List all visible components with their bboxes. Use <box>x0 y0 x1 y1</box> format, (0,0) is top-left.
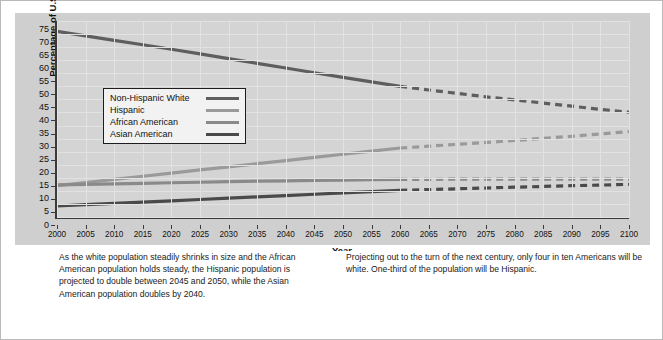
x-tick-mark <box>200 225 201 229</box>
x-tick-mark <box>114 225 115 229</box>
y-tick-label: 65 <box>23 51 49 60</box>
gridline-vertical <box>86 21 87 217</box>
legend-label: Hispanic <box>110 105 145 115</box>
y-tick-mark <box>51 68 55 69</box>
gridline-vertical <box>372 21 373 217</box>
gridline-vertical <box>457 21 458 217</box>
x-tick-mark <box>429 225 430 229</box>
y-tick-label: 20 <box>23 168 49 177</box>
y-tick-mark <box>51 29 55 30</box>
gridline-vertical <box>429 21 430 217</box>
gridline-horizontal <box>57 178 629 179</box>
caption-left: As the white population steadily shrinks… <box>15 251 324 329</box>
gridline-horizontal <box>57 165 629 166</box>
chart-panel: Percentage of U.S. Population 0510152025… <box>15 13 650 245</box>
x-tick-mark <box>400 225 401 229</box>
legend-swatch <box>206 109 239 112</box>
y-tick-label: 5 <box>23 207 49 216</box>
x-tick-mark <box>457 225 458 229</box>
y-tick-mark <box>51 186 55 187</box>
y-tick-label: 10 <box>23 194 49 203</box>
y-tick-mark <box>51 81 55 82</box>
y-tick-mark <box>51 134 55 135</box>
x-tick-mark <box>143 225 144 229</box>
gridline-vertical <box>286 21 287 217</box>
x-tick-mark <box>486 225 487 229</box>
gridline-vertical <box>543 21 544 217</box>
y-tick-label: 35 <box>23 129 49 138</box>
y-tick-mark <box>51 120 55 121</box>
y-tick-label: 45 <box>23 103 49 112</box>
y-tick-label: 50 <box>23 90 49 99</box>
x-tick-label: 2100 <box>612 231 646 239</box>
caption-row: As the white population steadily shrinks… <box>15 251 650 329</box>
x-tick-mark <box>600 225 601 229</box>
gridline-vertical <box>314 21 315 217</box>
gridline-horizontal <box>57 152 629 153</box>
gridline-horizontal <box>57 204 629 205</box>
legend-row: African American <box>110 116 239 128</box>
gridline-vertical <box>572 21 573 217</box>
legend-row: Hispanic <box>110 104 239 116</box>
legend-swatch <box>206 121 239 124</box>
x-tick-mark <box>286 225 287 229</box>
y-tick-mark <box>51 160 55 161</box>
y-tick-mark <box>51 199 55 200</box>
gridline-vertical <box>486 21 487 217</box>
x-tick-mark <box>314 225 315 229</box>
gridline-vertical <box>400 21 401 217</box>
x-tick-mark <box>86 225 87 229</box>
y-tick-label: 15 <box>23 181 49 190</box>
gridline-horizontal <box>57 60 629 61</box>
x-tick-mark <box>343 225 344 229</box>
legend-swatch <box>206 133 239 136</box>
y-tick-mark <box>51 94 55 95</box>
x-tick-mark <box>257 225 258 229</box>
legend-label: African American <box>110 117 178 127</box>
gridline-horizontal <box>57 73 629 74</box>
legend-label: Asian American <box>110 129 173 139</box>
x-tick-mark <box>229 225 230 229</box>
gridline-vertical <box>629 21 630 217</box>
figure-container: Percentage of U.S. Population 0510152025… <box>0 0 663 340</box>
gridline-vertical <box>515 21 516 217</box>
gridline-horizontal <box>57 217 629 218</box>
y-tick-label: 30 <box>23 142 49 151</box>
y-tick-label: 40 <box>23 116 49 125</box>
legend-label: Non-Hispanic White <box>110 93 190 103</box>
y-tick-mark <box>51 55 55 56</box>
x-tick-mark <box>171 225 172 229</box>
gridline-horizontal <box>57 47 629 48</box>
gridline-vertical <box>343 21 344 217</box>
y-tick-label: 25 <box>23 155 49 164</box>
caption-right: Projecting out to the turn of the next c… <box>342 251 650 329</box>
y-tick-mark <box>51 225 55 226</box>
y-tick-label: 60 <box>23 64 49 73</box>
chart-legend: Non-Hispanic WhiteHispanicAfrican Americ… <box>103 88 246 144</box>
x-tick-mark <box>543 225 544 229</box>
gridline-vertical <box>257 21 258 217</box>
y-tick-mark <box>51 107 55 108</box>
gridline-horizontal <box>57 34 629 35</box>
gridline-horizontal <box>57 191 629 192</box>
legend-row: Non-Hispanic White <box>110 92 239 104</box>
x-tick-mark <box>57 225 58 229</box>
gridline-vertical <box>600 21 601 217</box>
legend-swatch <box>206 97 239 100</box>
x-tick-mark <box>372 225 373 229</box>
y-tick-label: 70 <box>23 38 49 47</box>
gridline-vertical <box>57 21 58 217</box>
y-tick-mark <box>51 212 55 213</box>
y-tick-mark <box>51 42 55 43</box>
x-tick-mark <box>572 225 573 229</box>
x-tick-mark <box>515 225 516 229</box>
y-tick-mark <box>51 147 55 148</box>
y-tick-label: 55 <box>23 77 49 86</box>
x-tick-mark <box>629 225 630 229</box>
legend-row: Asian American <box>110 128 239 140</box>
y-tick-label: 75 <box>23 25 49 34</box>
gridline-horizontal <box>57 21 629 22</box>
y-tick-label: 0 <box>23 221 49 230</box>
y-tick-mark <box>51 173 55 174</box>
